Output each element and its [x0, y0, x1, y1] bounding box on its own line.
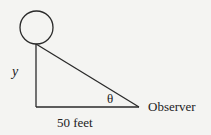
balloon-circle [20, 11, 53, 44]
triangle-diagram: y θ Observer 50 feet [0, 0, 211, 135]
observer-label: Observer [148, 99, 196, 114]
theta-label: θ [107, 91, 113, 106]
hypotenuse [36, 44, 139, 107]
y-label: y [10, 64, 19, 79]
base-length-label: 50 feet [57, 115, 93, 130]
